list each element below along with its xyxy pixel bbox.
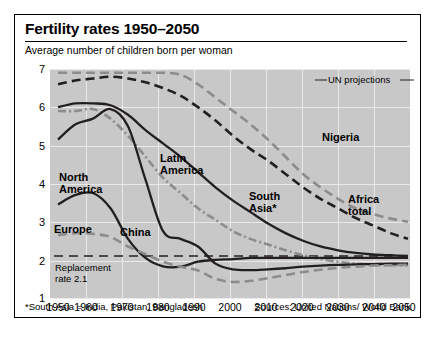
un-projections-label: UN projections [328, 74, 390, 85]
y-tick-7: 7 [19, 63, 45, 75]
series-label-latin-america: Latin America [160, 153, 203, 176]
replacement-rate-annotation: Replacement rate 2.1 [55, 263, 111, 284]
series-label-europe: Europe [54, 224, 92, 236]
chart-figure: Fertility rates 1950–2050 Average number… [14, 14, 421, 318]
y-tick-3: 3 [19, 216, 45, 228]
y-tick-6: 6 [19, 101, 45, 113]
x-tick-2000: 2000 [218, 301, 241, 313]
page-title: Fertility rates 1950–2050 [25, 20, 199, 38]
series-label-north-america: North America [59, 172, 102, 195]
series-curve-south-asia [58, 103, 408, 256]
plot-area: North America Europe China Latin America… [50, 69, 410, 299]
y-tick-2: 2 [19, 255, 45, 267]
title-divider [25, 41, 407, 42]
y-tick-5: 5 [19, 140, 45, 152]
series-label-nigeria: Nigeria [322, 132, 359, 144]
series-label-africa-total: Africa total [348, 194, 379, 217]
source-note: Sources: United Nations/ World Bank [254, 301, 411, 312]
y-axis: 7 6 5 4 3 2 1 [15, 69, 45, 299]
chart-subtitle: Average number of children born per woma… [25, 44, 233, 56]
series-label-south-asia: South Asia* [249, 191, 280, 214]
y-tick-4: 4 [19, 178, 45, 190]
series-label-china: China [120, 227, 151, 239]
footnote: *South Asia = India, Pakistan, Banglades… [25, 301, 203, 312]
